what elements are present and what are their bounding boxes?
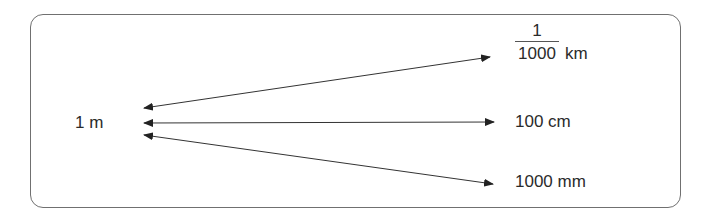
target-label-mm: 1000 mm [515,173,586,190]
fraction-unit: km [565,45,588,62]
arrow-m-to-cm [144,122,494,123]
km-fraction: 1 1000 km [515,22,588,62]
conversion-arrows [0,0,707,217]
fraction-denominator: 1000 [518,42,556,62]
arrow-m-to-mm [144,135,493,184]
target-label-cm: 100 cm [515,113,571,130]
source-label: 1 m [75,114,103,131]
fraction-numerator: 1 [532,22,541,41]
arrow-m-to-km [144,57,490,108]
